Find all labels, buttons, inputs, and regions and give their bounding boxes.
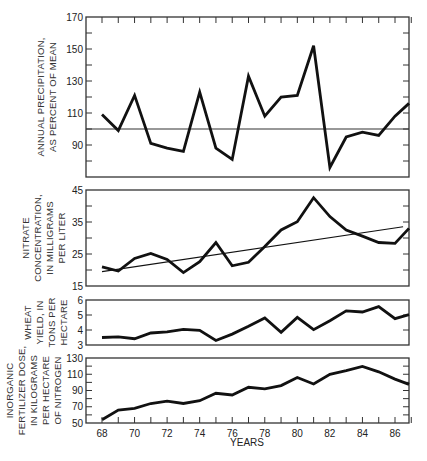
y-axis-title-line: FERTILIZER DOSE,	[16, 346, 27, 436]
data-line-precipitation	[102, 46, 409, 168]
y-axis-title-line: OF NITROGEN	[52, 356, 63, 424]
y-axis-title-line: IN MILLIGRAMS	[44, 201, 55, 274]
y-axis-title-line: TONS PER	[46, 298, 57, 348]
y-tick-label: 50	[72, 418, 84, 429]
y-axis-title-line: PER HECTARE	[40, 356, 51, 425]
y-axis-title-line: NITRATE	[20, 217, 31, 258]
y-tick-label: 45	[72, 185, 84, 196]
y-axis-title-line: CONCENTRATION,	[32, 194, 43, 282]
x-axis-title: YEARS	[230, 437, 264, 448]
y-tick-label: 130	[66, 76, 83, 87]
y-axis-title-line: WHEAT	[22, 305, 33, 340]
y-axis-title-line: AS PERCENT OF MEAN	[47, 42, 58, 152]
data-line-nitrate	[102, 198, 409, 273]
data-line-wheat	[102, 307, 409, 341]
y-tick-label: 35	[72, 217, 84, 228]
y-axis-title-line: IN KILOGRAMS	[28, 355, 39, 426]
y-axis-title-line: HECTARE	[58, 299, 69, 345]
x-tick-label: 82	[324, 428, 336, 439]
x-tick-label: 74	[194, 428, 206, 439]
panel-wheat: 6543WHEATYIELD, INTONS PERHECTARE	[22, 295, 409, 351]
y-tick-label: 6	[77, 295, 83, 306]
y-axis-title-line: INORGANIC	[4, 363, 15, 419]
panel-fertilizer: 130110907050INORGANICFERTILIZER DOSE,IN …	[4, 346, 409, 436]
y-tick-label: 90	[72, 140, 84, 151]
y-tick-label: 15	[72, 281, 84, 292]
x-tick-label: 86	[389, 428, 401, 439]
y-tick-label: 130	[66, 353, 83, 364]
y-tick-label: 25	[72, 249, 84, 260]
x-tick-label: 84	[357, 428, 369, 439]
plot-frame	[86, 190, 409, 286]
y-tick-label: 4	[77, 325, 83, 336]
y-tick-label: 110	[67, 369, 83, 380]
x-axis: 68707274767880828486	[96, 417, 411, 439]
y-tick-label: 90	[72, 385, 84, 396]
y-axis-title-line: PER LITER	[56, 213, 67, 264]
data-line-fertilizer	[102, 367, 409, 420]
stacked-line-charts: 17015013011090ANNUAL PRECIPITATION,AS PE…	[0, 0, 427, 461]
y-axis-title-line: ANNUAL PRECIPITATION,	[35, 37, 46, 156]
y-tick-label: 150	[66, 44, 83, 55]
panel-precipitation: 17015013011090ANNUAL PRECIPITATION,AS PE…	[35, 12, 411, 178]
y-tick-label: 5	[77, 310, 83, 321]
x-tick-label: 68	[96, 428, 108, 439]
y-axis-title-line: YIELD, IN	[34, 300, 45, 344]
trend-line	[102, 227, 403, 272]
x-tick-label: 70	[129, 428, 141, 439]
y-tick-label: 70	[72, 401, 84, 412]
y-tick-label: 3	[77, 340, 83, 351]
x-tick-label: 80	[292, 428, 304, 439]
y-tick-label: 110	[67, 108, 83, 119]
y-tick-label: 170	[66, 12, 83, 23]
x-tick-label: 72	[162, 428, 174, 439]
figure: 17015013011090ANNUAL PRECIPITATION,AS PE…	[0, 0, 427, 461]
panel-nitrate: 45352515NITRATECONCENTRATION,IN MILLIGRA…	[20, 185, 409, 292]
